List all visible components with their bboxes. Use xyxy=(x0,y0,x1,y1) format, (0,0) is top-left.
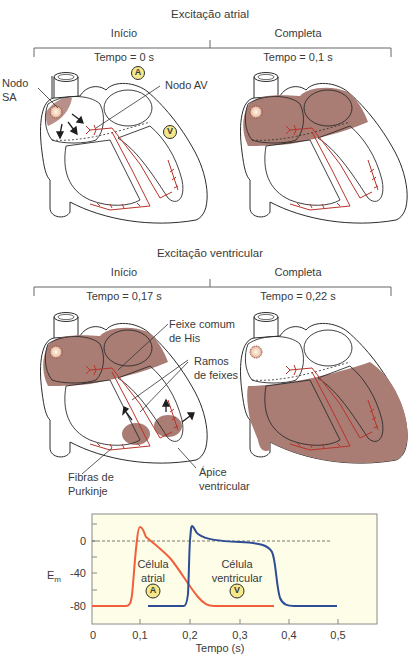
atrial-start-time: Tempo = 0 s xyxy=(94,52,154,63)
ventricular-apex-label-line2: ventricular xyxy=(199,481,250,492)
atrial-bracket xyxy=(34,40,391,57)
ventricular-complete-time: Tempo = 0,22 s xyxy=(260,291,336,302)
ventricular-cell-label-line1: Célula xyxy=(221,559,252,570)
ventricular-start-time: Tempo = 0,17 s xyxy=(86,291,162,302)
x-tick-0-3: 0,3 xyxy=(232,630,247,641)
atrial-complete-label: Completa xyxy=(274,28,321,39)
x-axis-label: Tempo (s) xyxy=(196,643,245,654)
chart-badge-a-letter: A xyxy=(150,586,157,595)
his-bundle-label-line2: de His xyxy=(169,333,200,344)
y-tick-0: 0 xyxy=(80,536,86,547)
heart-ventricular-complete xyxy=(241,313,408,464)
atrial-badge-a-letter: A xyxy=(135,68,142,77)
x-tick-0-5: 0,5 xyxy=(330,630,345,641)
atrial-complete-time: Tempo = 0,1 s xyxy=(263,52,332,63)
his-bundle-label-line1: Feixe comum xyxy=(169,319,235,330)
y-tick-minus40: -40 xyxy=(70,568,86,579)
x-tick-0: 0 xyxy=(90,630,96,641)
x-tick-0-1: 0,1 xyxy=(132,630,147,641)
atrial-start-label: Início xyxy=(111,28,137,39)
y-axis-label: Em xyxy=(47,570,61,584)
y-tick-minus80: -80 xyxy=(70,601,86,612)
atrial-section-title: Excitação atrial xyxy=(171,9,249,21)
atrial-cell-label-line1: Célula xyxy=(137,559,168,570)
sa-node-label-line1: Nodo xyxy=(2,78,28,89)
ventricular-complete-label: Completa xyxy=(274,267,321,278)
purkinje-label-line2: Purkinje xyxy=(68,486,108,497)
bundle-branches-label-line2: de feixes xyxy=(194,370,238,381)
ventricular-start-label: Início xyxy=(111,267,137,278)
heart-atrial-complete xyxy=(241,73,408,224)
purkinje-label-line1: Fibras de xyxy=(68,472,114,483)
chart-badge-v-letter: V xyxy=(234,586,240,595)
x-tick-0-2: 0,2 xyxy=(182,630,197,641)
ventricular-cell-label-line2: ventricular xyxy=(212,573,263,584)
atrial-cell-label-line2: atrial xyxy=(141,573,165,584)
atrial-badge-v-letter: V xyxy=(167,127,173,136)
av-node-label: Nodo AV xyxy=(165,80,208,91)
ventricular-section-title: Excitação ventricular xyxy=(157,248,263,260)
bundle-branches-label-line1: Ramos xyxy=(194,356,229,367)
x-tick-0-4: 0,4 xyxy=(281,630,296,641)
sa-node-label-line2: SA xyxy=(2,92,17,103)
ventricular-apex-label-line1: Ápice xyxy=(199,467,227,478)
